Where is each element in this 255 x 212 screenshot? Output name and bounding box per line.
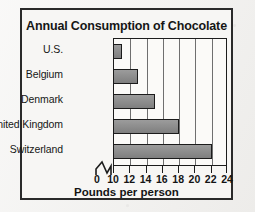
x-tick-label-10: 10 [107,173,119,185]
bar-denmark [113,94,155,109]
chart-title: Annual Consumption of Chocolate [22,19,231,33]
gridline-22 [212,39,213,165]
tickmark-14 [146,166,147,173]
chart-frame: Annual Consumption of Chocolate U.S. Bel… [20,8,233,200]
x-tick-label-24: 24 [221,173,233,185]
tickmark-16 [162,166,163,173]
bar-u-s [113,44,123,59]
tickmark-22 [211,166,212,173]
x-tick-label-14: 14 [140,173,152,185]
category-label-us: U.S. [43,43,63,55]
tickmark-12 [129,166,130,173]
tickmark-18 [178,166,179,173]
x-tick-label-16: 16 [156,173,168,185]
chart-figure: Annual Consumption of Chocolate U.S. Bel… [0,0,255,212]
category-label-belgium: Belgium [26,68,63,80]
bar-belgium [113,69,139,84]
category-label-denmark: Denmark [21,93,63,105]
x-tick-label-18: 18 [172,173,184,185]
bar-switzerland [113,144,212,159]
x-tick-label-12: 12 [123,173,135,185]
tickmark-20 [194,166,195,173]
plot-area [113,38,227,166]
tickmark-24 [226,166,227,173]
category-label-united-kingdom: United Kingdom [0,118,63,130]
x-tick-label-22: 22 [205,173,217,185]
x-tick-label-0: 0 [94,173,100,185]
x-axis-title: Pounds per person [22,186,231,198]
bar-united-kingdom [113,119,180,134]
category-label-switzerland: Switzerland [10,143,63,155]
x-tick-label-20: 20 [189,173,201,185]
